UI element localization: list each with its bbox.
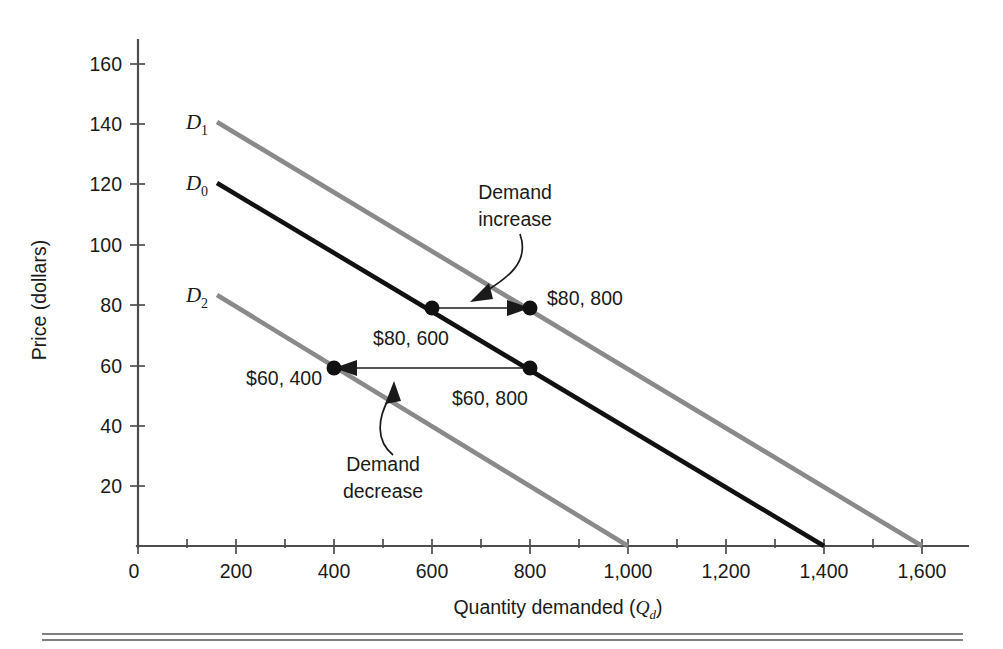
y-tick-label-80: 80 xyxy=(100,294,122,316)
y-tick-label-40: 40 xyxy=(100,415,122,437)
data-point-80-800[interactable] xyxy=(523,301,538,316)
demand-decrease-annotation: Demand decrease xyxy=(343,453,423,502)
x-axis-title-close: ) xyxy=(656,596,663,618)
demand-decrease-line2: decrease xyxy=(343,480,423,502)
curve-label-d0-base: D xyxy=(185,171,201,195)
curve-label-d1-sub: 1 xyxy=(201,123,208,138)
curve-label-d1-base: D xyxy=(185,110,201,134)
curve-label-d1: D1 xyxy=(185,110,208,138)
y-axis-tick-labels: 160 140 120 100 80 60 40 20 xyxy=(89,53,122,497)
curve-label-d2: D2 xyxy=(185,283,208,311)
x-tick-label-800: 800 xyxy=(514,560,547,582)
x-tick-label-400: 400 xyxy=(318,560,351,582)
demand-decrease-arrow xyxy=(334,360,528,376)
y-tick-label-20: 20 xyxy=(100,475,122,497)
curve-label-d2-sub: 2 xyxy=(201,296,208,311)
y-tick-label-160: 160 xyxy=(89,53,122,75)
y-axis-title: Price (dollars) xyxy=(28,240,50,360)
x-axis-title: Quantity demanded (Qd) xyxy=(453,596,662,622)
x-tick-label-1200: 1,200 xyxy=(702,560,751,582)
data-point-60-400[interactable] xyxy=(327,361,342,376)
x-tick-label-1000: 1,000 xyxy=(604,560,653,582)
demand-decrease-callout-arrowhead xyxy=(385,381,401,404)
data-point-80-600[interactable] xyxy=(425,301,440,316)
svg-text:Quantity demanded (Qd): Quantity demanded (Qd) xyxy=(453,596,662,622)
demand-curve-chart: 160 140 120 100 80 60 40 20 xyxy=(0,0,1003,649)
x-tick-label-600: 600 xyxy=(416,560,449,582)
curve-label-d0: D0 xyxy=(185,171,208,199)
x-axis-title-main: Quantity demanded ( xyxy=(453,596,636,618)
demand-increase-line1: Demand xyxy=(478,181,552,203)
y-tick-label-60: 60 xyxy=(100,355,122,377)
demand-decrease-callout-line xyxy=(380,398,393,455)
demand-increase-callout-arrowhead xyxy=(470,283,493,302)
demand-decrease-callout xyxy=(380,381,401,455)
data-point-label-60-400: $60, 400 xyxy=(246,367,322,389)
x-tick-label-1400: 1,400 xyxy=(800,560,849,582)
demand-shift-figure: 160 140 120 100 80 60 40 20 xyxy=(0,0,1003,649)
curve-label-d2-base: D xyxy=(185,283,201,307)
x-tick-label-1600: 1,600 xyxy=(898,560,947,582)
data-point-label-60-800: $60, 800 xyxy=(452,387,528,409)
x-axis-title-q: Q xyxy=(636,597,650,618)
x-tick-label-0: 0 xyxy=(129,560,140,582)
demand-increase-line2: increase xyxy=(478,208,552,230)
y-tick-label-120: 120 xyxy=(89,173,122,195)
x-tick-label-200: 200 xyxy=(220,560,253,582)
demand-curve-d1 xyxy=(217,122,922,546)
y-tick-label-140: 140 xyxy=(89,113,122,135)
data-point-label-80-600: $80, 600 xyxy=(373,327,449,349)
x-axis-tick-labels: 0 200 400 600 800 1,000 1,200 1,400 1,60… xyxy=(129,560,947,582)
y-tick-label-100: 100 xyxy=(89,234,122,256)
demand-decrease-line1: Demand xyxy=(346,453,420,475)
data-point-60-800[interactable] xyxy=(523,361,538,376)
demand-increase-annotation: Demand increase xyxy=(478,181,552,230)
data-point-label-80-800: $80, 800 xyxy=(547,287,623,309)
curve-label-d0-sub: 0 xyxy=(201,184,208,199)
